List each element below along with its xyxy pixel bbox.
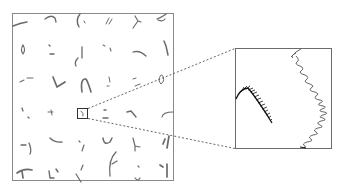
zoom-panel: [236, 49, 332, 149]
overview-panel: [13, 14, 174, 183]
figure: [0, 0, 348, 195]
overview-frame: [13, 14, 174, 181]
